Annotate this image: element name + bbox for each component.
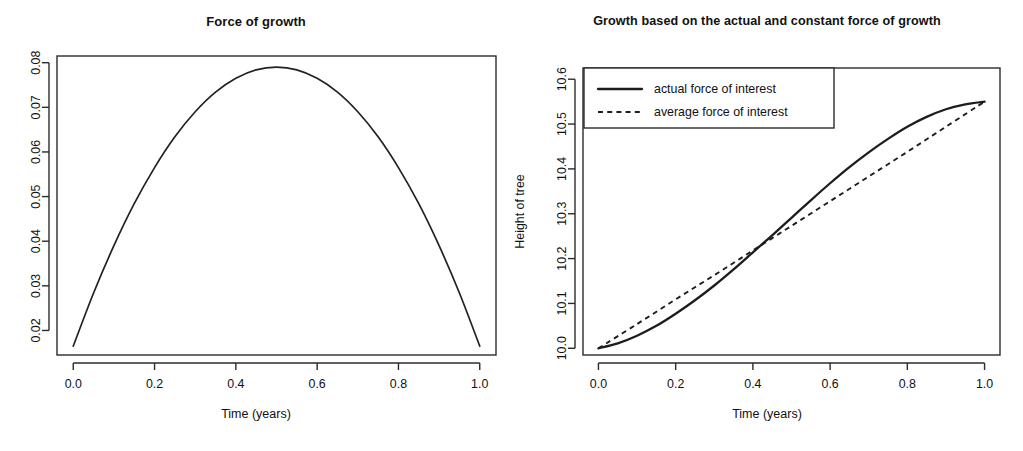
x-tick-label: 0.2 xyxy=(667,377,684,391)
y-tick-label: 10.2 xyxy=(555,246,569,270)
y-tick-label: 0.05 xyxy=(29,184,43,208)
panel-force-of-growth: Force of growth 0.00.20.40.60.81.00.020.… xyxy=(0,0,512,451)
y-tick-label: 0.07 xyxy=(29,95,43,119)
right-plot-canvas: 0.00.20.40.60.81.010.010.110.210.310.410… xyxy=(511,0,1023,451)
series-line-1 xyxy=(598,102,984,349)
left-x-axis-label: Time (years) xyxy=(0,407,512,421)
legend-box xyxy=(584,68,834,128)
legend-label: actual force of interest xyxy=(654,82,776,96)
x-tick-label: 0.4 xyxy=(227,377,244,391)
left-plot-canvas: 0.00.20.40.60.81.00.020.030.040.050.060.… xyxy=(0,0,512,451)
x-tick-label: 0.8 xyxy=(390,377,407,391)
x-tick-label: 0.0 xyxy=(65,377,82,391)
y-tick-label: 0.03 xyxy=(29,274,43,298)
y-tick-label: 10.5 xyxy=(555,112,569,136)
series-line-0 xyxy=(73,67,479,346)
x-tick-label: 0.6 xyxy=(821,377,838,391)
x-tick-label: 1.0 xyxy=(976,377,993,391)
y-tick-label: 10.3 xyxy=(555,202,569,226)
x-tick-label: 0.8 xyxy=(899,377,916,391)
y-axis-label: Height of tree xyxy=(513,174,527,248)
panel-tree-growth: Growth based on the actual and constant … xyxy=(511,0,1023,451)
y-tick-label: 10.4 xyxy=(555,157,569,181)
two-panel-figure: Force of growth 0.00.20.40.60.81.00.020.… xyxy=(0,0,1023,451)
y-tick-label: 10.6 xyxy=(555,67,569,91)
x-tick-label: 0.2 xyxy=(146,377,163,391)
y-tick-label: 10.0 xyxy=(555,336,569,360)
y-tick-label: 0.04 xyxy=(29,229,43,253)
y-tick-label: 10.1 xyxy=(555,291,569,315)
y-tick-label: 0.02 xyxy=(29,318,43,342)
x-tick-label: 0.6 xyxy=(309,377,326,391)
x-tick-label: 0.0 xyxy=(590,377,607,391)
legend-label: average force of interest xyxy=(654,105,788,119)
x-tick-label: 1.0 xyxy=(471,377,488,391)
x-tick-label: 0.4 xyxy=(744,377,761,391)
y-tick-label: 0.06 xyxy=(29,140,43,164)
right-x-axis-label: Time (years) xyxy=(511,407,1023,421)
y-tick-label: 0.08 xyxy=(29,51,43,75)
